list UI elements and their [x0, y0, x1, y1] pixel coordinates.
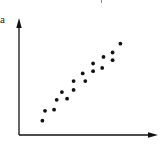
data-point	[100, 66, 104, 70]
y-axis-arrow-icon	[16, 18, 21, 28]
data-point	[102, 55, 106, 59]
data-point	[65, 97, 69, 101]
y-axis	[16, 18, 21, 135]
data-point	[91, 69, 95, 73]
scatter-plot	[0, 0, 163, 151]
data-point	[91, 62, 95, 66]
data-point	[55, 98, 59, 102]
data-point	[52, 108, 56, 112]
data-point	[72, 88, 76, 92]
data-points	[41, 42, 123, 123]
data-point	[111, 58, 115, 62]
data-point	[72, 79, 76, 83]
data-point	[111, 51, 115, 55]
data-point	[60, 90, 64, 94]
data-point	[43, 109, 47, 113]
data-point	[81, 72, 85, 76]
x-axis-arrow-icon	[148, 132, 158, 137]
data-point	[119, 42, 123, 46]
data-point	[83, 79, 87, 83]
x-axis	[19, 132, 158, 137]
data-point	[41, 119, 45, 123]
